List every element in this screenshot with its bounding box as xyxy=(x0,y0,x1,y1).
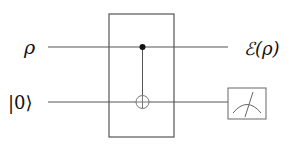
input-label-ket0: |0⟩ xyxy=(8,92,33,114)
measurement-meter-icon xyxy=(228,88,266,119)
input-label-rho: ρ xyxy=(23,36,36,58)
channel-box xyxy=(109,14,174,137)
output-label-channel: ℰ(ρ) xyxy=(244,38,280,59)
circuit-diagram: ρ |0⟩ ℰ(ρ) xyxy=(0,0,300,145)
control-dot-icon xyxy=(140,44,146,50)
target-xor-icon xyxy=(136,96,149,109)
